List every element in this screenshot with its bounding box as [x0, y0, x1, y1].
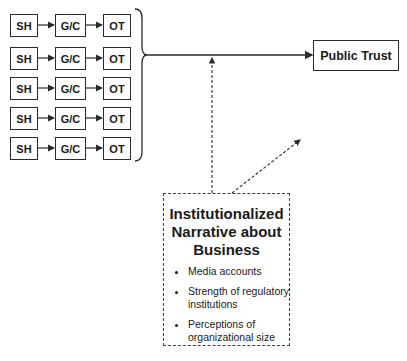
node-sh-1: SH [10, 14, 38, 37]
node-gc-3: G/C [55, 77, 86, 100]
node-gc-5: G/C [55, 137, 86, 160]
node-ot-2: OT [103, 47, 131, 70]
node-gc-2: G/C [55, 47, 86, 70]
node-sh-4: SH [10, 107, 38, 130]
narrative-title: Institutionalized Narrative about Busine… [164, 205, 289, 259]
curly-brace [135, 9, 147, 161]
narrative-diagonal-arrow [232, 140, 300, 193]
node-ot-5: OT [103, 137, 131, 160]
node-sh-2: SH [10, 47, 38, 70]
node-sh-5: SH [10, 137, 38, 160]
node-public-trust: Public Trust [313, 40, 399, 71]
node-ot-4: OT [103, 107, 131, 130]
narrative-box: Institutionalized Narrative about Busine… [163, 193, 290, 346]
narrative-bullets: Media accounts Strength of regulatory in… [164, 265, 289, 344]
bullet-item: Perceptions of organizational size [188, 318, 289, 344]
bullet-item: Media accounts [188, 265, 289, 278]
node-ot-3: OT [103, 77, 131, 100]
bullet-item: Strength of regulatory institutions [188, 285, 289, 311]
node-sh-3: SH [10, 77, 38, 100]
node-gc-4: G/C [55, 107, 86, 130]
node-gc-1: G/C [55, 14, 86, 37]
node-ot-1: OT [103, 14, 131, 37]
